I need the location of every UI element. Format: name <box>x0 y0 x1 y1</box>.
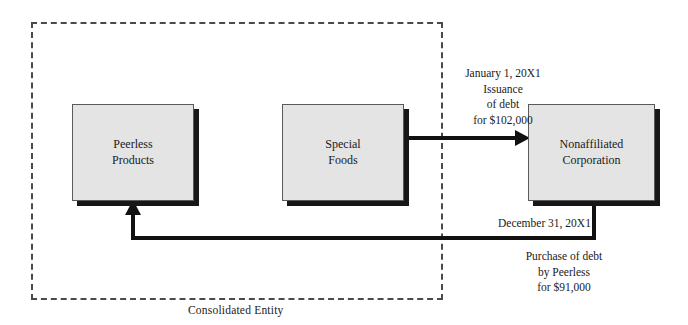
issuance-arrow-shaft <box>404 136 518 140</box>
entity-box-peerless-products: Peerless Products <box>72 104 194 201</box>
purchase-arrow-segment-horizontal <box>131 236 596 240</box>
purchase-annotation: Purchase of debt by Peerless for $91,000 <box>498 249 630 296</box>
issuance-annotation: January 1, 20X1 Issuance of debt for $10… <box>443 66 563 129</box>
entity-box-special-foods: Special Foods <box>282 104 404 201</box>
entity-label-nonaffiliated-corporation: Nonaffiliated Corporation <box>560 137 624 169</box>
consolidated-entity-caption: Consolidated Entity <box>188 304 283 316</box>
purchase-date-annotation: December 31, 20X1 <box>498 216 628 232</box>
diagram-canvas: Peerless Products Special Foods Nonaffil… <box>0 0 688 325</box>
entity-label-special-foods: Special Foods <box>325 137 360 169</box>
entity-label-peerless-products: Peerless Products <box>112 137 154 169</box>
purchase-arrow-head-icon <box>125 200 141 215</box>
purchase-arrow-segment-left <box>131 214 135 240</box>
